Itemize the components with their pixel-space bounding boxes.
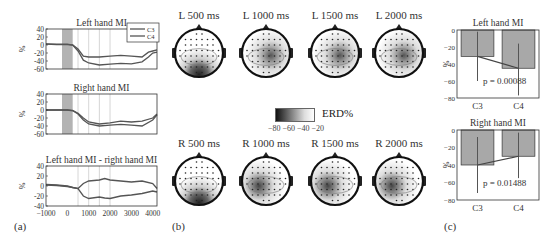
x-tick-label: 0 [65, 209, 69, 218]
y-tick-label: −20 [444, 144, 455, 152]
head-outline [311, 157, 359, 205]
x-tick-label: C3 [472, 203, 483, 213]
colorbar-ticks: −80 −60 −40 −20 [268, 124, 324, 133]
x-tick-label: 1000 [81, 209, 96, 218]
y-axis-label: % [18, 45, 27, 52]
head-outline [242, 157, 290, 205]
topomap-right-3: R 2000 ms [372, 137, 426, 205]
x-tick-label: 4000 [145, 209, 160, 218]
plot-title: Left hand MI [76, 18, 127, 28]
y-tick-label: 20 [37, 172, 45, 181]
topomap-label: L 1500 ms [312, 9, 359, 21]
y-axis-label: % [18, 182, 27, 189]
panel-label-a: (a) [14, 220, 26, 232]
y-tick-label: -60 [34, 65, 44, 74]
y-tick-label: 40 [37, 162, 45, 171]
y-tick-label: −80 [444, 95, 455, 103]
line-plot-right-hand: Right hand MI40200-20-40-60% [0, 80, 165, 155]
topomap-label: R 500 ms [178, 137, 220, 149]
y-tick-label: 0 [452, 127, 456, 135]
topomap-label: R 1500 ms [311, 137, 359, 149]
head-outline [311, 29, 359, 77]
legend-entry: C4 [147, 33, 155, 40]
x-tick-label: −1000 [36, 209, 55, 218]
bar-chart-right-hand: Right hand MIC3C40−20−40−60−80%p = 0.014… [440, 115, 558, 220]
plot-title: Left hand MI - right hand MI [46, 155, 157, 165]
topomap-left-1: L 1000 ms [239, 9, 293, 77]
baseline-shade [62, 94, 73, 134]
bar-chart-left-hand: Left hand MIC3C40−20−40−60−80%p = 0.0008… [440, 0, 558, 118]
line-plot-difference: Left hand MI - right hand MI40200-20-40%… [0, 150, 165, 225]
head-outline [375, 29, 423, 77]
topomap-right-0: R 500 ms [172, 137, 226, 205]
colorbar-label: ERD% [322, 107, 353, 119]
y-tick-label: -20 [34, 192, 44, 201]
x-tick-label: C3 [472, 101, 483, 111]
topomap-left-2: L 1500 ms [308, 9, 362, 77]
topomap-right-1: R 1000 ms [239, 137, 293, 205]
series-c3 [46, 179, 157, 189]
head-outline [375, 157, 423, 205]
y-tick-label: −20 [444, 44, 455, 52]
legend-entry: C3 [147, 26, 155, 33]
x-tick-label: C4 [513, 203, 524, 213]
head-outline [175, 157, 223, 205]
line-plot-left-hand: Left hand MI40200-20-40-60%C3C4 [0, 0, 165, 80]
topomap-label: L 2000 ms [376, 9, 423, 21]
x-tick-label: 2000 [103, 209, 118, 218]
topomap-label: L 500 ms [178, 9, 219, 21]
head-outline [242, 29, 290, 77]
y-tick-label: 0 [40, 182, 44, 191]
p-value-annotation: p = 0.00088 [483, 76, 527, 86]
topomap-label: R 1000 ms [242, 137, 290, 149]
head-outline [175, 29, 223, 77]
topomap-left-3: L 2000 ms [372, 9, 426, 77]
topomap-label: R 2000 ms [375, 137, 423, 149]
p-value-annotation: p = 0.01488 [483, 178, 527, 188]
y-tick-label: −60 [444, 179, 455, 187]
y-tick-label: −60 [444, 78, 455, 86]
x-tick-label: 3000 [124, 209, 139, 218]
y-axis-label: % [18, 110, 27, 117]
topomap-label: L 1000 ms [243, 9, 290, 21]
plot-title: Right hand MI [470, 118, 526, 128]
plot-title: Right hand MI [74, 83, 130, 93]
topomap-right-2: R 1500 ms [308, 137, 362, 205]
y-tick-label: -60 [34, 130, 44, 139]
plot-title: Left hand MI [473, 18, 524, 28]
y-tick-label: 0 [452, 27, 456, 35]
topomap-left-0: L 500 ms [172, 9, 226, 77]
x-tick-label: C4 [513, 101, 524, 111]
y-axis-label: % [442, 161, 451, 168]
baseline-shade [62, 29, 73, 69]
colorbar [275, 108, 315, 122]
series-c4 [46, 185, 157, 199]
y-tick-label: −80 [444, 197, 455, 205]
y-axis-label: % [442, 60, 451, 67]
